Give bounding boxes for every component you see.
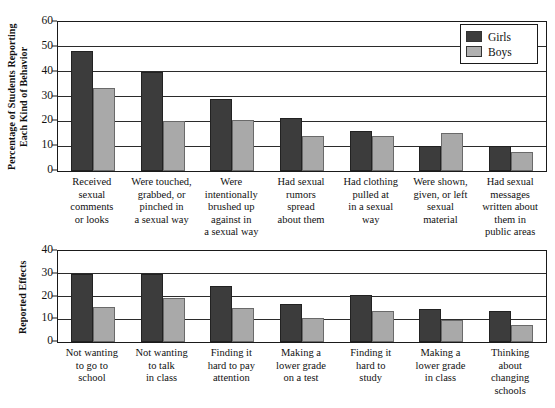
- dual-bar-chart-figure: Percentage of Students Reporting Each Ki…: [0, 0, 555, 408]
- top-chart-bar-boys: [232, 120, 254, 171]
- legend-label-boys: Boys: [488, 46, 512, 58]
- bottom-chart-bar-boys: [232, 308, 254, 342]
- bottom-chart-gridline: [58, 273, 546, 274]
- top-chart-bar-girls: [489, 146, 511, 171]
- bottom-chart-y-tick-mark: [52, 250, 57, 251]
- bottom-chart-bar-girls: [489, 311, 511, 342]
- top-chart-gridline: [58, 96, 546, 97]
- legend-swatch-girls: [466, 31, 482, 42]
- top-chart-x-label: Had sexual messages written about them i…: [475, 176, 545, 239]
- top-chart-y-tick-mark: [52, 21, 57, 22]
- bottom-chart-bar-boys: [511, 325, 533, 342]
- legend-label-girls: Girls: [488, 31, 511, 43]
- top-chart-x-label: Had sexual rumors spread about them: [266, 176, 336, 226]
- top-chart-x-label: Were touched, grabbed, or pinched in a s…: [127, 176, 197, 226]
- bottom-chart-bar-boys: [302, 318, 324, 342]
- top-chart-x-label: Were shown, given, or left sexual materi…: [406, 176, 476, 226]
- bottom-chart-x-label: Making a lower grade in class: [406, 347, 476, 385]
- top-chart-x-label: Had clothing pulled at in a sexual way: [336, 176, 406, 226]
- bottom-chart-x-label: Not wanting to talk in class: [127, 347, 197, 385]
- top-chart-bar-girls: [280, 118, 302, 171]
- top-chart-bar-girls: [210, 99, 232, 171]
- bottom-chart-y-tick-mark: [52, 341, 57, 342]
- bottom-chart-bar-girls: [280, 304, 302, 342]
- top-chart-y-axis-title: Percentage of Students Reporting Each Ki…: [6, 18, 32, 176]
- top-chart-bar-girls: [71, 51, 93, 171]
- bottom-chart-x-label: Finding it hard to pay attention: [196, 347, 266, 385]
- top-chart-y-tick-mark: [52, 120, 57, 121]
- bottom-chart-plot-area: [57, 250, 547, 343]
- top-chart-y-tick-mark: [52, 45, 57, 46]
- legend-item-girls: Girls: [466, 29, 530, 44]
- top-chart-bar-girls: [419, 146, 441, 171]
- legend-swatch-boys: [466, 46, 482, 57]
- bottom-chart-x-label: Finding it hard to study: [336, 347, 406, 385]
- bottom-chart-bar-boys: [93, 307, 115, 342]
- top-chart-bar-girls: [141, 72, 163, 171]
- top-chart-x-label: Received sexual comments or looks: [57, 176, 127, 226]
- top-chart-y-tick-mark: [52, 70, 57, 71]
- top-chart-bar-boys: [511, 152, 533, 171]
- bottom-chart-y-axis-title: Reported Effects: [17, 250, 31, 345]
- bottom-chart-bar-boys: [372, 311, 394, 342]
- top-chart-gridline: [58, 121, 546, 122]
- bottom-chart-bar-boys: [163, 298, 185, 342]
- chart-legend: Girls Boys: [460, 24, 538, 64]
- top-chart-y-tick-mark: [52, 145, 57, 146]
- top-chart-gridline: [58, 71, 546, 72]
- bottom-chart-panel: Reported Effects 010203040 Not wanting t…: [0, 245, 555, 408]
- legend-item-boys: Boys: [466, 44, 530, 59]
- bottom-chart-x-label: Thinking about changing schools: [475, 347, 545, 397]
- top-chart-x-label: Were intentionally brushed up against in…: [196, 176, 266, 239]
- top-chart-x-axis-labels: Received sexual comments or looksWere to…: [57, 176, 547, 244]
- top-chart-bar-boys: [302, 136, 324, 171]
- bottom-chart-x-label: Making a lower grade on a test: [266, 347, 336, 385]
- top-chart-bar-girls: [350, 131, 372, 171]
- top-chart-y-tick-mark: [52, 95, 57, 96]
- bottom-chart-y-tick-mark: [52, 318, 57, 319]
- top-chart-bar-boys: [441, 133, 463, 171]
- bottom-chart-gridline: [58, 296, 546, 297]
- bottom-chart-y-tick-mark: [52, 272, 57, 273]
- bottom-chart-y-tick-mark: [52, 295, 57, 296]
- top-chart-bar-boys: [93, 88, 115, 171]
- top-chart-panel: Percentage of Students Reporting Each Ki…: [0, 0, 555, 245]
- bottom-chart-bar-girls: [71, 274, 93, 342]
- bottom-chart-x-label: Not wanting to go to school: [57, 347, 127, 385]
- top-chart-bar-boys: [163, 121, 185, 171]
- bottom-chart-x-axis-labels: Not wanting to go to schoolNot wanting t…: [57, 347, 547, 407]
- bottom-chart-bar-girls: [210, 286, 232, 342]
- bottom-chart-bar-boys: [441, 320, 463, 342]
- bottom-chart-bar-girls: [141, 274, 163, 342]
- bottom-chart-bar-girls: [350, 295, 372, 342]
- top-chart-bar-boys: [372, 136, 394, 171]
- bottom-chart-bar-girls: [419, 309, 441, 342]
- top-chart-y-tick-mark: [52, 170, 57, 171]
